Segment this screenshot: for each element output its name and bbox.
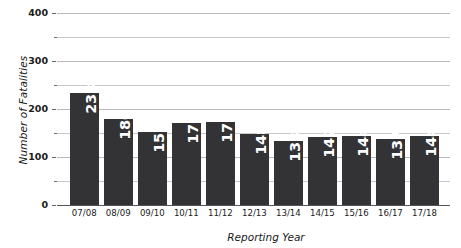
bar[interactable]: 152 bbox=[138, 132, 167, 205]
y-tick-mark bbox=[52, 61, 56, 62]
bar[interactable]: 180 bbox=[104, 119, 133, 205]
y-tick-label: 100 bbox=[0, 152, 48, 162]
bar[interactable]: 137 bbox=[376, 139, 405, 205]
bar[interactable]: 144 bbox=[342, 136, 371, 205]
bar-value-label: 144 bbox=[424, 127, 439, 157]
x-axis-title: Reporting Year bbox=[196, 231, 336, 243]
bar-value-label: 152 bbox=[152, 123, 167, 153]
bar-slot: 148 bbox=[237, 13, 271, 205]
bar-slot: 152 bbox=[135, 13, 169, 205]
y-tick-label: 300 bbox=[0, 56, 48, 66]
y-tick-label: 0 bbox=[0, 200, 48, 210]
bar-slot: 144 bbox=[339, 13, 373, 205]
bar[interactable]: 142 bbox=[308, 137, 337, 205]
x-tick-label: 17/18 bbox=[404, 208, 444, 218]
bar-slot: 233 bbox=[67, 13, 101, 205]
bar-value-wrap: 133 bbox=[274, 145, 303, 205]
bar-slot: 180 bbox=[101, 13, 135, 205]
bar-value-label: 173 bbox=[220, 113, 235, 143]
bar-chart: Number of Fatalities 2331801521711731481… bbox=[0, 0, 461, 248]
bar-value-wrap: 173 bbox=[206, 126, 235, 186]
y-tick-mark-minor bbox=[54, 37, 57, 38]
bar-value-wrap: 180 bbox=[104, 123, 133, 183]
plot-area: 233180152171173148133142144137144 bbox=[57, 13, 450, 205]
bar-value-label: 144 bbox=[356, 127, 371, 157]
bar-value-wrap: 233 bbox=[70, 97, 99, 157]
y-tick-mark bbox=[52, 109, 56, 110]
bar[interactable]: 171 bbox=[172, 123, 201, 205]
bar-value-wrap: 148 bbox=[240, 138, 269, 198]
bar[interactable]: 173 bbox=[206, 122, 235, 205]
y-tick-label: 200 bbox=[0, 104, 48, 114]
y-tick-label: 400 bbox=[0, 8, 48, 18]
bar-value-label: 137 bbox=[390, 130, 405, 160]
bar-value-label: 148 bbox=[254, 125, 269, 155]
bar-value-wrap: 144 bbox=[342, 140, 371, 200]
bar-value-label: 171 bbox=[186, 114, 201, 144]
y-tick-mark-minor bbox=[54, 181, 57, 182]
bar-slot: 144 bbox=[407, 13, 441, 205]
bar-slot: 137 bbox=[373, 13, 407, 205]
bar[interactable]: 148 bbox=[240, 134, 269, 205]
bar-slot: 133 bbox=[271, 13, 305, 205]
x-axis-tick-labels: 07/0808/0909/1010/1111/1212/1313/1414/15… bbox=[57, 208, 450, 222]
bar-value-wrap: 171 bbox=[172, 127, 201, 187]
bar-value-wrap: 142 bbox=[308, 141, 337, 201]
bar-value-label: 133 bbox=[288, 132, 303, 162]
bar-value-label: 233 bbox=[84, 84, 99, 114]
bar[interactable]: 144 bbox=[410, 136, 439, 205]
y-tick-mark-minor bbox=[54, 133, 57, 134]
y-tick-mark bbox=[52, 13, 56, 14]
bar-value-label: 142 bbox=[322, 128, 337, 158]
bars-layer: 233180152171173148133142144137144 bbox=[57, 13, 450, 205]
bar-slot: 173 bbox=[203, 13, 237, 205]
bar-value-wrap: 144 bbox=[410, 140, 439, 200]
bar-value-wrap: 152 bbox=[138, 136, 167, 196]
y-tick-mark-minor bbox=[54, 85, 57, 86]
bar-value-label: 180 bbox=[118, 110, 133, 140]
bar[interactable]: 233 bbox=[70, 93, 99, 205]
y-tick-mark bbox=[52, 205, 56, 206]
bar[interactable]: 133 bbox=[274, 141, 303, 205]
y-tick-mark bbox=[52, 157, 56, 158]
bar-value-wrap: 137 bbox=[376, 143, 405, 203]
bar-slot: 142 bbox=[305, 13, 339, 205]
bar-slot: 171 bbox=[169, 13, 203, 205]
axis-baseline bbox=[57, 205, 450, 206]
